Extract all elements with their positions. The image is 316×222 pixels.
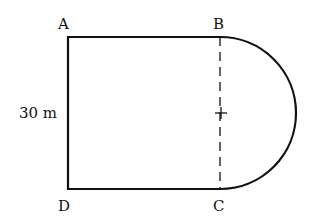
rectangle-outline	[68, 37, 220, 189]
label-c: C	[213, 197, 224, 215]
label-a: A	[57, 15, 69, 33]
label-d: D	[58, 197, 70, 215]
semicircle-arc	[220, 37, 296, 189]
label-b: B	[213, 15, 224, 33]
diagram-canvas: A B D C 30 m	[0, 0, 316, 222]
dimension-label: 30 m	[19, 104, 57, 122]
